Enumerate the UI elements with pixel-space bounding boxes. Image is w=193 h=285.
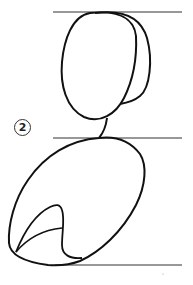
speck — [162, 273, 163, 274]
body-egg — [9, 138, 145, 266]
neck — [99, 118, 107, 138]
head-back-oval — [95, 12, 150, 104]
sketch-diagram — [0, 0, 193, 285]
inner-flap-crease — [16, 228, 62, 252]
inner-flap — [16, 205, 82, 258]
step-number-badge: 2 — [14, 119, 31, 136]
